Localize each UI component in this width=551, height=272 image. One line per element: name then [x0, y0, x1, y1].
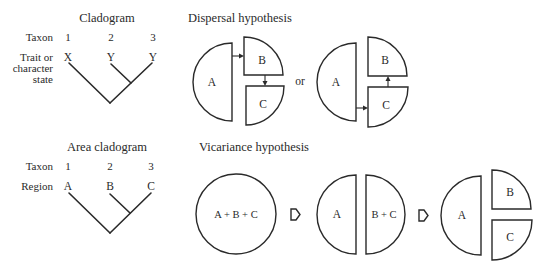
- dispersal-arrow-b-to-c: [263, 75, 268, 86]
- figure-cladogram-biogeography: Cladogram Taxon Trait or character state…: [0, 0, 551, 272]
- region-letter: A: [64, 180, 73, 192]
- character-state: Y: [107, 51, 116, 63]
- or-separator: or: [295, 75, 305, 87]
- trait-row-label-line3: state: [33, 73, 53, 85]
- area-label: B + C: [371, 209, 396, 220]
- open-right-arrow-icon: [419, 210, 428, 221]
- area-label: A: [208, 76, 217, 88]
- open-right-arrow-icon: [291, 209, 300, 220]
- area-label: B: [381, 54, 389, 66]
- vicariance-stage-3: A B C: [441, 170, 532, 260]
- taxon-number: 3: [148, 160, 154, 172]
- taxon-row-label: Taxon: [26, 160, 54, 172]
- area-label: A: [458, 209, 467, 221]
- area-cladogram-title: Area cladogram: [67, 140, 147, 154]
- dispersal-title: Dispersal hypothesis: [188, 11, 292, 25]
- dispersal-panel: Dispersal hypothesis A B C or: [188, 11, 408, 127]
- dispersal-arrow-c-to-b: [386, 76, 391, 87]
- region-letter: B: [106, 180, 114, 192]
- diagram-canvas: Cladogram Taxon Trait or character state…: [0, 0, 551, 272]
- character-state: X: [64, 51, 73, 63]
- area-label: C: [259, 98, 267, 110]
- cladogram-title: Cladogram: [79, 11, 135, 25]
- vicariance-stage-1: A + B + C: [196, 174, 276, 254]
- area-label: B: [506, 186, 514, 198]
- character-state: Y: [149, 51, 158, 63]
- dispersal-option-1: A B C: [193, 37, 284, 125]
- taxon-number: 2: [107, 160, 113, 172]
- dispersal-arrow-a-to-c: [356, 106, 368, 111]
- vicariance-stage-2: A B + C: [317, 175, 405, 254]
- region-row-label: Region: [21, 180, 53, 192]
- area-label: C: [382, 99, 390, 111]
- area-label: C: [506, 231, 514, 243]
- region-letter: C: [147, 180, 155, 192]
- area-cladogram-panel: Area cladogram Taxon Region 1 2 3 A B C: [21, 140, 155, 233]
- taxon-number: 2: [108, 31, 114, 43]
- tree-branch: [110, 194, 130, 213]
- tree-branch: [69, 193, 110, 233]
- taxon-number: 1: [65, 160, 71, 172]
- vicariance-title: Vicariance hypothesis: [199, 140, 309, 154]
- area-label: A: [332, 76, 341, 88]
- cladogram-tree: [69, 63, 152, 103]
- tree-branch: [69, 63, 110, 103]
- taxon-number: 1: [65, 31, 71, 43]
- area-label: A + B + C: [214, 209, 257, 220]
- area-label: A: [333, 208, 342, 220]
- taxon-number: 3: [150, 31, 156, 43]
- taxon-row-label: Taxon: [26, 31, 54, 43]
- cladogram-panel: Cladogram Taxon Trait or character state…: [13, 11, 158, 103]
- vicariance-panel: Vicariance hypothesis A + B + C A B + C …: [196, 140, 532, 260]
- area-cladogram-tree: [69, 193, 151, 233]
- dispersal-option-2: A B C: [317, 37, 408, 127]
- area-label: B: [258, 54, 266, 66]
- tree-branch: [111, 64, 131, 83]
- dispersal-arrow-a-to-b: [232, 54, 244, 59]
